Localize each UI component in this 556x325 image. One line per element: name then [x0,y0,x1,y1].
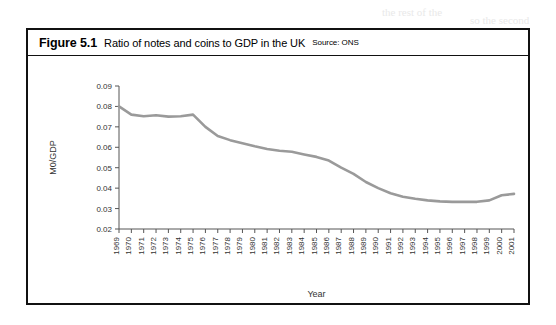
x-tick-label: 1970 [124,236,133,254]
x-tick-label: 1969 [112,236,121,254]
y-tick-label: 0.09 [96,82,112,91]
line-chart: 0.020.030.040.050.060.070.080.0919691970… [28,56,528,305]
x-tick-label: 1995 [433,236,442,254]
x-tick-label: 1971 [137,236,146,254]
bleed-text: so the second [470,14,529,26]
x-tick-label: 1989 [359,236,368,254]
x-tick-label: 1991 [384,236,393,254]
x-tick-label: 1998 [470,236,479,254]
x-tick-label: 1990 [371,236,380,254]
x-tick-label: 1996 [445,236,454,254]
x-tick-label: 1997 [458,236,467,254]
x-tick-label: 1978 [223,236,232,254]
figure-caption: Ratio of notes and coins to GDP in the U… [104,37,305,49]
x-tick-label: 1988 [347,236,356,254]
x-tick-label: 1976 [198,236,207,254]
y-tick-label: 0.05 [96,164,112,173]
x-tick-label: 1999 [482,236,491,254]
chart-plot-region: 0.020.030.040.050.060.070.080.0919691970… [28,56,528,303]
figure-box: Figure 5.1 Ratio of notes and coins to G… [26,28,530,305]
x-tick-label: 1994 [421,236,430,254]
x-tick-label: 1983 [285,236,294,254]
y-tick-label: 0.08 [96,102,112,111]
x-tick-label: 1984 [297,236,306,254]
bleed-text: the rest of the [382,6,442,18]
y-tick-label: 0.07 [96,123,112,132]
y-tick-label: 0.02 [96,225,112,234]
figure-source: Source: ONS [312,38,359,47]
figure-number: Figure 5.1 [39,36,97,50]
y-tick-label: 0.03 [96,205,112,214]
x-tick-label: 1980 [248,236,257,254]
x-tick-label: 1993 [408,236,417,254]
x-axis-title: Year [307,289,325,299]
y-tick-label: 0.06 [96,143,112,152]
x-tick-label: 1982 [272,236,281,254]
x-tick-label: 1973 [161,236,170,254]
series-line-m0-gdp [119,106,514,201]
x-tick-label: 1981 [260,236,269,254]
x-tick-label: 1975 [186,236,195,254]
x-tick-label: 1972 [149,236,158,254]
figure-header: Figure 5.1 Ratio of notes and coins to G… [28,30,528,56]
y-tick-label: 0.04 [96,184,112,193]
x-tick-label: 1974 [174,236,183,254]
x-tick-label: 1987 [334,236,343,254]
y-axis-title: M0/GDP [48,140,58,175]
x-tick-label: 1979 [235,236,244,254]
x-tick-label: 1986 [322,236,331,254]
x-tick-label: 2000 [495,236,504,254]
x-tick-label: 1992 [396,236,405,254]
x-tick-label: 2001 [507,236,516,254]
x-tick-label: 1985 [310,236,319,254]
x-tick-label: 1977 [211,236,220,254]
